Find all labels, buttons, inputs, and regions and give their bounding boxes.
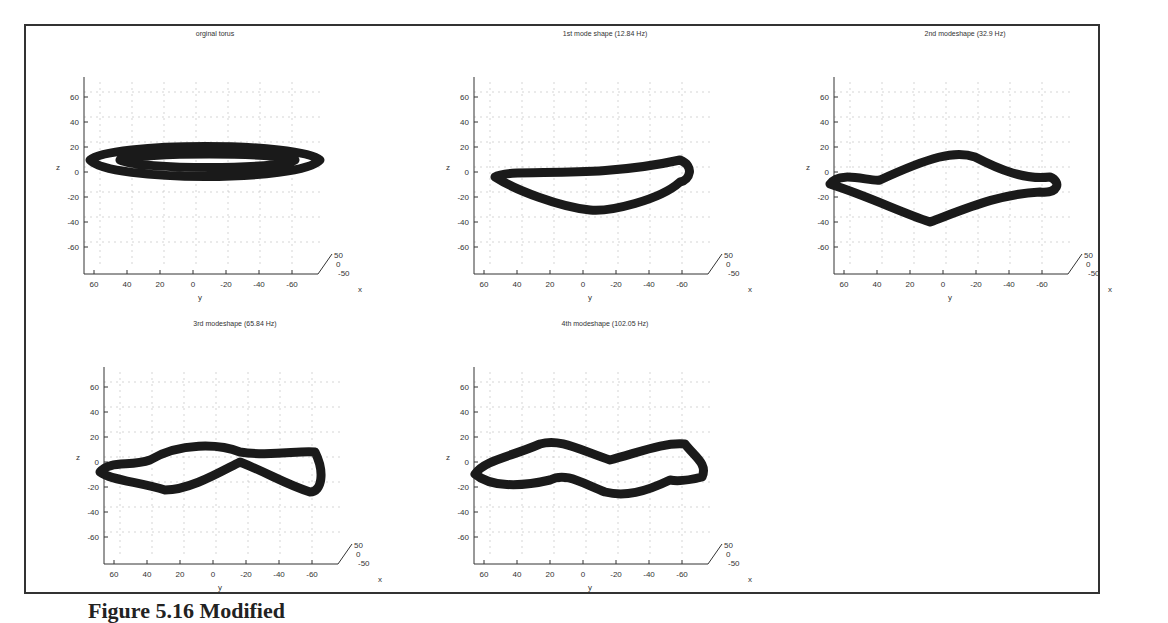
subplot-title: 2nd modeshape (32.9 Hz) xyxy=(800,30,1130,37)
svg-text:0: 0 xyxy=(581,570,586,579)
svg-text:40: 40 xyxy=(513,280,522,289)
svg-text:-60: -60 xyxy=(457,243,469,252)
svg-text:-50: -50 xyxy=(338,269,350,278)
svg-text:-40: -40 xyxy=(87,508,99,517)
svg-text:-40: -40 xyxy=(67,218,79,227)
svg-text:-40: -40 xyxy=(1003,280,1015,289)
svg-text:60: 60 xyxy=(820,93,829,102)
svg-text:-60: -60 xyxy=(67,243,79,252)
svg-text:0: 0 xyxy=(726,260,731,269)
svg-text:x: x xyxy=(378,575,382,584)
svg-text:-20: -20 xyxy=(457,483,469,492)
svg-text:0: 0 xyxy=(726,550,731,559)
svg-text:x: x xyxy=(748,285,752,294)
svg-text:x: x xyxy=(358,285,362,294)
svg-text:-40: -40 xyxy=(253,280,265,289)
svg-text:-60: -60 xyxy=(676,570,688,579)
svg-text:-40: -40 xyxy=(643,570,655,579)
plot-area: 6040200-20-40-606040200-20-40-60500-50zy… xyxy=(440,332,770,602)
svg-text:0: 0 xyxy=(465,168,470,177)
svg-text:20: 20 xyxy=(546,570,555,579)
svg-text:x: x xyxy=(748,575,752,584)
svg-text:60: 60 xyxy=(480,280,489,289)
svg-text:0: 0 xyxy=(95,458,100,467)
svg-text:20: 20 xyxy=(820,143,829,152)
plot-area: 6040200-20-40-606040200-20-40-60500-50zy… xyxy=(800,42,1130,312)
svg-text:0: 0 xyxy=(336,260,341,269)
svg-text:60: 60 xyxy=(90,383,99,392)
subplot-4: 4th modeshape (102.05 Hz)6040200-20-40-6… xyxy=(440,320,770,610)
svg-text:50: 50 xyxy=(334,251,343,260)
svg-text:40: 40 xyxy=(123,280,132,289)
svg-text:-60: -60 xyxy=(1036,280,1048,289)
svg-text:20: 20 xyxy=(176,570,185,579)
svg-text:-20: -20 xyxy=(220,280,232,289)
svg-text:-50: -50 xyxy=(358,559,370,568)
svg-text:20: 20 xyxy=(90,433,99,442)
plot-area: 6040200-20-40-606040200-20-40-60500-50zy… xyxy=(440,42,770,312)
svg-text:-50: -50 xyxy=(1088,269,1100,278)
subplot-2: 2nd modeshape (32.9 Hz)6040200-20-40-606… xyxy=(800,30,1130,320)
svg-text:z: z xyxy=(446,453,450,462)
svg-text:-60: -60 xyxy=(286,280,298,289)
svg-text:0: 0 xyxy=(356,550,361,559)
svg-text:50: 50 xyxy=(724,541,733,550)
svg-text:y: y xyxy=(218,583,222,592)
svg-text:-20: -20 xyxy=(240,570,252,579)
svg-text:60: 60 xyxy=(90,280,99,289)
svg-text:0: 0 xyxy=(581,280,586,289)
svg-text:-40: -40 xyxy=(643,280,655,289)
svg-text:-20: -20 xyxy=(67,193,79,202)
svg-text:-50: -50 xyxy=(728,269,740,278)
svg-text:-60: -60 xyxy=(676,280,688,289)
svg-text:60: 60 xyxy=(110,570,119,579)
subplot-title: orginal torus xyxy=(50,30,380,37)
svg-text:-40: -40 xyxy=(457,508,469,517)
svg-text:20: 20 xyxy=(156,280,165,289)
svg-text:40: 40 xyxy=(513,570,522,579)
svg-text:-20: -20 xyxy=(87,483,99,492)
svg-text:40: 40 xyxy=(143,570,152,579)
svg-text:0: 0 xyxy=(465,458,470,467)
svg-text:40: 40 xyxy=(873,280,882,289)
svg-text:0: 0 xyxy=(825,168,830,177)
svg-text:60: 60 xyxy=(70,93,79,102)
svg-text:-60: -60 xyxy=(457,533,469,542)
svg-text:-20: -20 xyxy=(817,193,829,202)
figure-caption: Figure 5.16 Modified xyxy=(88,600,285,622)
svg-text:40: 40 xyxy=(460,118,469,127)
svg-text:0: 0 xyxy=(941,280,946,289)
svg-text:-40: -40 xyxy=(457,218,469,227)
svg-text:-20: -20 xyxy=(970,280,982,289)
svg-text:0: 0 xyxy=(211,570,216,579)
svg-text:20: 20 xyxy=(460,143,469,152)
svg-text:z: z xyxy=(446,163,450,172)
svg-text:y: y xyxy=(198,293,202,302)
svg-text:-20: -20 xyxy=(610,280,622,289)
subplot-0: orginal torus6040200-20-40-606040200-20-… xyxy=(50,30,380,320)
subplot-3: 3rd modeshape (65.84 Hz)6040200-20-40-60… xyxy=(70,320,400,610)
svg-text:-40: -40 xyxy=(273,570,285,579)
svg-text:40: 40 xyxy=(70,118,79,127)
svg-text:20: 20 xyxy=(906,280,915,289)
svg-text:y: y xyxy=(948,293,952,302)
svg-text:40: 40 xyxy=(90,408,99,417)
svg-text:0: 0 xyxy=(1086,260,1091,269)
svg-text:y: y xyxy=(588,583,592,592)
svg-text:0: 0 xyxy=(191,280,196,289)
svg-text:50: 50 xyxy=(354,541,363,550)
svg-text:-20: -20 xyxy=(457,193,469,202)
svg-text:z: z xyxy=(806,163,810,172)
svg-text:-60: -60 xyxy=(817,243,829,252)
svg-text:-60: -60 xyxy=(306,570,318,579)
svg-text:x: x xyxy=(1108,285,1112,294)
svg-text:y: y xyxy=(588,293,592,302)
svg-text:50: 50 xyxy=(724,251,733,260)
svg-text:50: 50 xyxy=(1084,251,1093,260)
svg-text:40: 40 xyxy=(460,408,469,417)
subplot-title: 4th modeshape (102.05 Hz) xyxy=(440,320,770,327)
svg-text:60: 60 xyxy=(460,93,469,102)
svg-text:40: 40 xyxy=(820,118,829,127)
plot-area: 6040200-20-40-606040200-20-40-60500-50zy… xyxy=(50,42,380,312)
svg-text:60: 60 xyxy=(460,383,469,392)
